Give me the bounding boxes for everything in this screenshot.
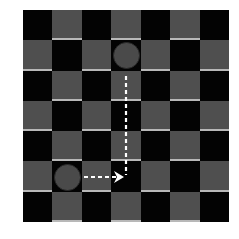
board-square[interactable] — [82, 192, 111, 222]
board-square[interactable] — [52, 192, 81, 222]
board-square[interactable] — [200, 71, 229, 101]
board-square[interactable] — [111, 161, 140, 191]
board-square[interactable] — [141, 131, 170, 161]
board-square[interactable] — [23, 161, 52, 191]
board-square[interactable] — [52, 131, 81, 161]
board-square[interactable] — [141, 71, 170, 101]
board-square[interactable] — [23, 40, 52, 70]
board-square[interactable] — [141, 161, 170, 191]
checkerboard — [23, 10, 229, 222]
board-square[interactable] — [52, 71, 81, 101]
board-square[interactable] — [200, 40, 229, 70]
board-square[interactable] — [52, 10, 81, 40]
board-square[interactable] — [111, 40, 140, 70]
board-square[interactable] — [111, 192, 140, 222]
board-square[interactable] — [170, 192, 199, 222]
board-square[interactable] — [170, 40, 199, 70]
piece-bottom[interactable] — [54, 164, 81, 191]
board-square[interactable] — [141, 192, 170, 222]
board-square[interactable] — [141, 40, 170, 70]
board-square[interactable] — [200, 101, 229, 131]
board-square[interactable] — [111, 131, 140, 161]
board-square[interactable] — [170, 71, 199, 101]
board-square[interactable] — [111, 10, 140, 40]
board-square[interactable] — [52, 40, 81, 70]
board-square[interactable] — [82, 101, 111, 131]
board-square[interactable] — [23, 192, 52, 222]
board-square[interactable] — [200, 161, 229, 191]
board-square[interactable] — [111, 71, 140, 101]
board-square[interactable] — [111, 101, 140, 131]
piece-top[interactable] — [113, 42, 140, 69]
board-square[interactable] — [82, 40, 111, 70]
board-square[interactable] — [170, 101, 199, 131]
board-square[interactable] — [200, 192, 229, 222]
board-square[interactable] — [23, 71, 52, 101]
board-square[interactable] — [200, 10, 229, 40]
board-square[interactable] — [23, 131, 52, 161]
board-square[interactable] — [82, 161, 111, 191]
board-square[interactable] — [82, 71, 111, 101]
board-square[interactable] — [23, 10, 52, 40]
board-square[interactable] — [23, 101, 52, 131]
board-square[interactable] — [52, 101, 81, 131]
board-square[interactable] — [170, 10, 199, 40]
board-square[interactable] — [170, 131, 199, 161]
board-square[interactable] — [170, 161, 199, 191]
board-square[interactable] — [141, 10, 170, 40]
board-square[interactable] — [141, 101, 170, 131]
board-square[interactable] — [200, 131, 229, 161]
board-square[interactable] — [52, 161, 81, 191]
board-square[interactable] — [82, 10, 111, 40]
board-square[interactable] — [82, 131, 111, 161]
